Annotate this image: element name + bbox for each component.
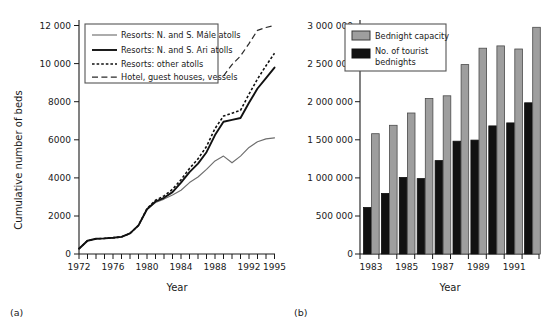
- panel-a-x-tickmarks: [79, 254, 275, 259]
- legend-label-tourist-bednights-line2: bednights: [375, 57, 416, 67]
- panel-b-xtick-1983: 1983: [360, 262, 383, 272]
- bar-capacity-1991: [515, 49, 523, 254]
- panel-b-x-tickmarks: [360, 254, 539, 259]
- bar-bednights-1989: [471, 140, 479, 254]
- panel-a-x-axis-title: Year: [165, 282, 188, 293]
- bar-capacity-1987: [443, 96, 451, 254]
- bar-capacity-1985: [407, 113, 415, 254]
- legend-label-ari-atolls: Resorts: N. and S. Ari atolls: [121, 45, 232, 55]
- panel-a-ytick-10000: 10 000: [40, 59, 72, 69]
- bar-capacity-1984: [390, 125, 398, 254]
- bar-capacity-1983: [372, 134, 380, 254]
- panel-b-ytick-500000: 500 000: [316, 211, 353, 221]
- legend-label-hotel-guesthouses-vessels: Hotel, guest houses, vessels: [121, 72, 238, 82]
- panel-a-xtick-1976: 1976: [102, 262, 125, 272]
- bar-capacity-1989: [479, 48, 487, 254]
- panel-a-y-tickmarks: [74, 26, 79, 255]
- panel-a-svg: Cumulative number of beds 12 000 10 000 …: [0, 0, 290, 333]
- panel-b-xtick-1989: 1989: [467, 262, 490, 272]
- bar-bednights-1985: [399, 177, 407, 254]
- panel-a-ytick-8000: 8000: [48, 97, 71, 107]
- bar-capacity-1990: [497, 46, 505, 254]
- panel-a-line-chart: Cumulative number of beds 12 000 10 000 …: [0, 0, 290, 333]
- panel-b-bar-chart: 3 000 000 2 500 000 2 000 000 1 500 000 …: [290, 0, 547, 333]
- series-line-ari-atolls: [79, 68, 275, 249]
- figure-container: Cumulative number of beds 12 000 10 000 …: [0, 0, 547, 333]
- bar-bednights-1987: [435, 161, 443, 254]
- panel-a-xtick-1988: 1988: [204, 262, 227, 272]
- bar-bednights-1986: [417, 179, 425, 254]
- bar-bednights-1988: [453, 141, 461, 254]
- legend-label-tourist-bednights-line1: No. of tourist: [375, 46, 429, 56]
- legend-label-bednight-capacity: Bednight capacity: [375, 31, 449, 41]
- panel-a-xtick-1992: 1992: [238, 262, 261, 272]
- bar-bednights-1990: [489, 126, 497, 254]
- bar-bednights-1992: [525, 103, 533, 254]
- bar-bednights-1983: [364, 208, 372, 255]
- panel-b-ytick-1500000: 1 500 000: [307, 135, 353, 145]
- panel-a-ytick-6000: 6000: [48, 135, 71, 145]
- panel-a-ytick-2000: 2000: [48, 211, 71, 221]
- panel-b-xtick-1991: 1991: [503, 262, 526, 272]
- legend-label-other-atolls: Resorts: other atolls: [121, 59, 203, 69]
- panel-a-xtick-1984: 1984: [170, 262, 193, 272]
- panel-b-xtick-1985: 1985: [395, 262, 418, 272]
- legend-swatch-bednight-capacity: [352, 31, 370, 40]
- panel-b-ytick-1000000: 1 000 000: [307, 173, 353, 183]
- panel-b-svg: 3 000 000 2 500 000 2 000 000 1 500 000 …: [290, 0, 547, 333]
- panel-a-ytick-12000: 12 000: [40, 21, 72, 31]
- series-line-male-atolls: [79, 138, 275, 249]
- panel-a-label: (a): [10, 307, 23, 318]
- bar-capacity-1988: [461, 65, 469, 254]
- panel-a-xtick-1972: 1972: [68, 262, 91, 272]
- panel-b-legend: Bednight capacity No. of tourist bednigh…: [345, 24, 449, 71]
- panel-a-xtick-1980: 1980: [136, 262, 159, 272]
- panel-a-y-axis-title: Cumulative number of beds: [13, 90, 24, 229]
- panel-a-ytick-4000: 4000: [48, 173, 71, 183]
- panel-b-ytick-0: 0: [347, 249, 353, 259]
- panel-b-ytick-2000000: 2 000 000: [307, 97, 353, 107]
- bar-bednights-1984: [381, 193, 389, 254]
- panel-b-xtick-1987: 1987: [431, 262, 454, 272]
- bar-capacity-1992: [533, 27, 541, 254]
- panel-b-x-axis-title: Year: [438, 282, 461, 293]
- legend-swatch-tourist-bednights: [352, 49, 370, 58]
- bar-capacity-1986: [425, 99, 433, 255]
- panel-a-xtick-1995: 1995: [263, 262, 286, 272]
- panel-a-ytick-0: 0: [65, 249, 71, 259]
- bar-bednights-1991: [507, 123, 515, 254]
- panel-b-label: (b): [294, 307, 307, 318]
- legend-label-male-atolls: Resorts: N. and S. Mále atolls: [121, 30, 241, 40]
- panel-a-legend: Resorts: N. and S. Mále atolls Resorts: …: [85, 24, 241, 83]
